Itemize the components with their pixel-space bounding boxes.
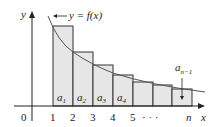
curve-label: y = f(x) [68,9,102,22]
x-axis-arrow-icon [198,103,205,109]
x-axis-label: x [200,111,206,123]
tick-3: 3 [90,111,96,123]
rect-6 [153,85,172,106]
tick-5: 5 [130,111,136,123]
tick-ellipsis: · · · [142,111,159,123]
tick-4: 4 [110,111,116,123]
tick-2: 2 [70,111,76,123]
tick-n: n [186,111,192,123]
label-a-n-minus-1: an−1 [175,61,192,76]
y-axis-label: y [20,8,26,20]
origin-label: 0 [21,111,27,123]
y-axis-arrow-icon [29,11,35,18]
tick-1: 1 [50,111,56,123]
rect-a1 [53,26,73,106]
rectangles [53,26,192,106]
diagram-canvas: y x 0 1 2 3 4 5 · · · n a1 a2 a3 a4 an−1… [0,0,218,127]
rect-5 [133,82,153,106]
curve-label-arrow-icon [53,14,57,18]
